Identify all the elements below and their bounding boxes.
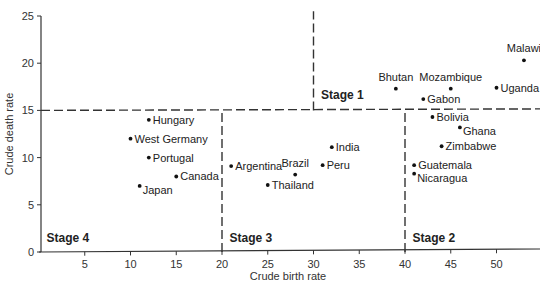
- x-tick-label: 50: [490, 258, 502, 270]
- point-label: Thailand: [272, 179, 314, 191]
- x-tick-label: 15: [170, 258, 182, 270]
- data-point-gabon: Gabon: [421, 93, 460, 105]
- x-axis-ticks: 5101520253035404550: [82, 249, 503, 270]
- point-label: Guatemala: [418, 159, 473, 171]
- point-label: Gabon: [427, 93, 460, 105]
- point-marker: [458, 125, 462, 129]
- point-marker: [330, 145, 334, 149]
- x-tick-label: 30: [307, 258, 319, 270]
- y-tick-label: 20: [22, 57, 34, 69]
- data-point-bhutan: Bhutan: [378, 71, 413, 91]
- point-marker: [495, 86, 499, 90]
- point-label: Nicaragua: [417, 172, 468, 184]
- x-axis-title: Crude birth rate: [250, 270, 326, 282]
- point-label: Hungary: [153, 114, 195, 126]
- data-point-west-germany: West Germany: [129, 133, 209, 145]
- demographic-transition-scatter-chart: 5101520253035404550 0510152025 Crude bir…: [0, 0, 540, 287]
- stage-label: Stage 3: [230, 231, 273, 245]
- y-tick-label: 5: [28, 199, 34, 211]
- point-marker: [431, 115, 435, 119]
- x-tick-label: 45: [445, 258, 457, 270]
- data-point-portugal: Portugal: [147, 152, 194, 164]
- stage-label: Stage 2: [413, 231, 456, 245]
- data-point-argentina: Argentina: [229, 160, 283, 172]
- point-label: Bolivia: [436, 111, 469, 123]
- point-label: Brazil: [281, 157, 309, 169]
- data-point-guatemala: Guatemala: [412, 159, 473, 171]
- point-label: Mozambique: [419, 71, 482, 83]
- point-marker: [147, 156, 151, 160]
- point-marker: [138, 184, 142, 188]
- point-label: Ghana: [463, 125, 497, 137]
- y-tick-label: 0: [28, 246, 34, 258]
- x-tick-label: 5: [82, 258, 88, 270]
- data-points: HungaryWest GermanyPortugalCanadaJapanAr…: [129, 42, 540, 196]
- point-marker: [174, 175, 178, 179]
- data-point-bolivia: Bolivia: [431, 111, 470, 123]
- point-label: Canada: [180, 170, 219, 182]
- data-point-canada: Canada: [174, 170, 219, 182]
- point-marker: [266, 183, 270, 187]
- data-point-japan: Japan: [138, 184, 173, 196]
- point-marker: [293, 173, 297, 177]
- data-point-peru: Peru: [321, 159, 350, 171]
- point-marker: [147, 118, 151, 122]
- data-point-zimbabwe: Zimbabwe: [440, 140, 497, 152]
- stage-label: Stage 1: [321, 88, 364, 102]
- data-point-nicaragua: Nicaragua: [412, 172, 468, 184]
- data-point-uganda: Uganda: [495, 82, 540, 94]
- x-tick-label: 20: [216, 258, 228, 270]
- data-point-brazil: Brazil: [281, 157, 309, 177]
- point-label: Peru: [327, 159, 350, 171]
- stage-label: Stage 4: [47, 231, 90, 245]
- data-point-thailand: Thailand: [266, 179, 314, 191]
- y-axis-ticks: 0510152025: [22, 10, 41, 258]
- y-tick-label: 15: [22, 104, 34, 116]
- point-marker: [229, 164, 233, 168]
- point-marker: [522, 58, 526, 62]
- data-point-ghana: Ghana: [458, 125, 497, 137]
- point-marker: [129, 137, 133, 141]
- point-label: India: [336, 141, 361, 153]
- point-marker: [321, 163, 325, 167]
- point-label: Argentina: [235, 160, 283, 172]
- data-point-mozambique: Mozambique: [419, 71, 482, 91]
- data-point-hungary: Hungary: [147, 114, 195, 126]
- x-tick-label: 10: [124, 258, 136, 270]
- data-point-india: India: [330, 141, 361, 153]
- point-label: Malawi: [507, 42, 540, 54]
- point-label: Uganda: [501, 82, 540, 94]
- x-tick-label: 40: [399, 258, 411, 270]
- point-marker: [394, 87, 398, 91]
- point-label: Zimbabwe: [446, 140, 497, 152]
- y-axis-title: Crude death rate: [3, 93, 15, 176]
- x-tick-label: 25: [262, 258, 274, 270]
- data-point-malawi: Malawi: [507, 42, 540, 62]
- point-marker: [449, 87, 453, 91]
- y-tick-label: 10: [22, 152, 34, 164]
- point-marker: [421, 97, 425, 101]
- point-marker: [412, 163, 416, 167]
- y-tick-label: 25: [22, 10, 34, 22]
- x-axis-line: [39, 249, 540, 252]
- x-tick-label: 35: [353, 258, 365, 270]
- point-label: Japan: [143, 184, 173, 196]
- point-marker: [440, 144, 444, 148]
- point-label: Bhutan: [378, 71, 413, 83]
- point-label: West Germany: [135, 133, 209, 145]
- point-marker: [412, 172, 416, 176]
- point-label: Portugal: [153, 152, 194, 164]
